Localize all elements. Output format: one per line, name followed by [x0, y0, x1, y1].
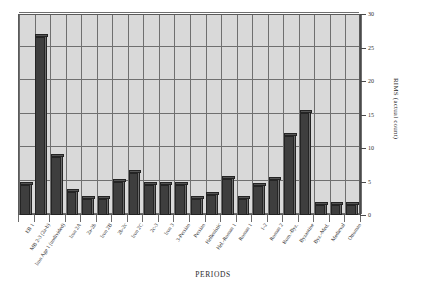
bar-front-face: [20, 185, 30, 215]
y-tick-mark: [360, 14, 366, 15]
y-tick-mark: [360, 148, 366, 149]
bar: [284, 133, 294, 215]
y-axis-title: RIMS (actual count): [392, 78, 400, 139]
bar-front-face: [160, 185, 170, 215]
gridline-horizontal: [19, 12, 359, 13]
bar: [35, 34, 45, 215]
bar-front-face: [284, 136, 294, 215]
bar: [300, 110, 310, 215]
y-tick-label: 0: [368, 212, 371, 218]
x-tick-mark: [18, 215, 19, 222]
x-axis-title: PERIODS: [0, 270, 426, 279]
bar-front-face: [35, 37, 45, 215]
bar-front-face: [129, 173, 139, 215]
y-tick-label: 30: [368, 11, 374, 17]
y-tick-mark: [360, 48, 366, 49]
y-tick-label: 10: [368, 145, 374, 151]
y-tick-label: 25: [368, 45, 374, 51]
y-tick-mark: [360, 215, 366, 216]
bar-front-face: [300, 113, 310, 215]
y-tick-mark: [360, 182, 366, 183]
bar: [20, 182, 30, 215]
y-tick-label: 20: [368, 78, 374, 84]
y-tick-mark: [360, 115, 366, 116]
bar: [160, 182, 170, 215]
chart-figure: RIMS (actual count) EB 1MB 2-3 (2a-b)Iro…: [0, 0, 426, 290]
bar: [269, 177, 279, 216]
bar: [129, 170, 139, 215]
y-tick-label: 5: [368, 179, 371, 185]
y-tick-mark: [360, 81, 366, 82]
x-axis-labels: EB 1MB 2-3 (2a-b)Iron Age 1 (undivided)I…: [0, 222, 426, 272]
bar-series: [18, 14, 360, 215]
y-tick-label: 15: [368, 112, 374, 118]
bar-front-face: [269, 180, 279, 216]
